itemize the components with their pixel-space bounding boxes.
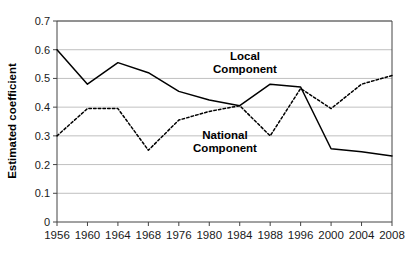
x-axis-tick-label: 2004 [349, 229, 375, 241]
x-axis-tick-label: 1976 [166, 229, 192, 241]
x-axis-tick-label: 2008 [379, 229, 405, 241]
x-axis-tick-label: 1968 [136, 229, 162, 241]
x-axis-tick-label: 2000 [318, 229, 344, 241]
y-axis-tick-label: 0.6 [35, 44, 50, 56]
annotation-line-2: Component [213, 63, 277, 75]
chart-figure: 00.10.20.30.40.50.60.7 19561960196419681… [0, 0, 416, 254]
annotation-line-1: Local [230, 50, 260, 62]
x-axis-tick-label: 1984 [227, 229, 253, 241]
x-axis-tick-label: 1988 [257, 229, 283, 241]
y-axis-tick-label: 0.5 [35, 72, 50, 84]
y-axis-tick-label: 0.2 [35, 159, 50, 171]
x-axis-tick-label: 1964 [105, 229, 131, 241]
y-axis-tick-label: 0 [44, 216, 50, 228]
annotation-line-1: National [202, 129, 247, 141]
annotation-national-component: NationalComponent [193, 129, 257, 154]
estimated-coefficient-line-chart: 00.10.20.30.40.50.60.7 19561960196419681… [0, 0, 416, 254]
y-axis-tick-label: 0.1 [35, 187, 50, 199]
chart-background [0, 0, 416, 254]
y-axis-tick-label: 0.7 [35, 15, 50, 27]
x-axis-tick-label: 1956 [44, 229, 70, 241]
y-axis-title: Estimated coefficient [6, 63, 18, 179]
annotation-line-2: Component [193, 142, 257, 154]
y-axis-tick-label: 0.4 [35, 101, 50, 113]
x-axis-tick-label: 1996 [288, 229, 314, 241]
x-axis-tick-label: 1960 [75, 229, 101, 241]
x-axis-tick-label: 1980 [196, 229, 222, 241]
y-axis-tick-label: 0.3 [35, 130, 50, 142]
